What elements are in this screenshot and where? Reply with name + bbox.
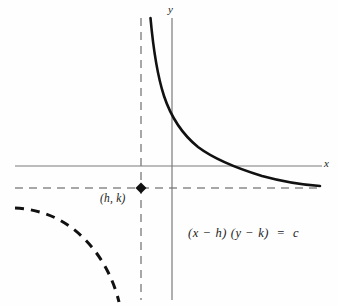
- equation-label: (x − h) (y − k) = c: [188, 227, 299, 240]
- hyperbola-branch-solid: [151, 18, 321, 186]
- hyperbola-figure: x y (h, k) (x − h) (y − k) = c: [0, 0, 339, 306]
- x-axis-label: x: [324, 158, 329, 169]
- hyperbola-branch-dashed: [15, 208, 119, 302]
- center-point-label: (h, k): [100, 193, 125, 205]
- figure-canvas: [0, 0, 339, 306]
- center-point-marker: [136, 183, 147, 194]
- y-axis-label: y: [168, 4, 173, 15]
